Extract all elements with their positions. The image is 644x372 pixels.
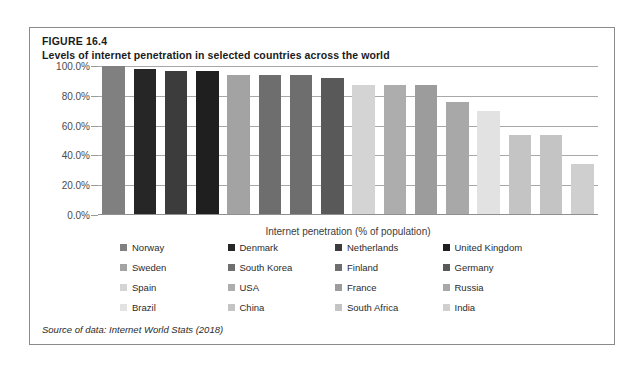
legend-label: Brazil <box>132 302 156 313</box>
plot-area: Internet penetration (% of population) <box>98 66 598 246</box>
legend-item-finland[interactable]: Finland <box>335 262 443 273</box>
y-axis: 100.0%80.0%60.0%40.0%20.0%0.0% <box>30 66 98 246</box>
bar-denmark <box>134 69 157 215</box>
y-axis-tick-label: 60.0% <box>62 120 90 131</box>
y-axis-tick-mark <box>91 66 98 67</box>
bar-slot <box>411 66 442 215</box>
bar-slot <box>161 66 192 215</box>
bar-slot <box>223 66 254 215</box>
bar-norway <box>102 66 125 215</box>
y-axis-tick-mark <box>91 215 98 216</box>
legend-swatch-icon <box>443 304 450 311</box>
legend-item-usa[interactable]: USA <box>228 282 336 293</box>
figure-title: Levels of internet penetration in select… <box>42 49 390 61</box>
legend-item-india[interactable]: India <box>443 302 551 313</box>
bar-united-kingdom <box>196 71 219 215</box>
y-axis-tick-mark <box>91 96 98 97</box>
legend-label: Denmark <box>240 242 279 253</box>
legend-label: Germany <box>455 262 494 273</box>
legend-swatch-icon <box>443 284 450 291</box>
bar-south-africa <box>540 135 563 215</box>
y-axis-tick-label: 20.0% <box>62 180 90 191</box>
bar-slot <box>536 66 567 215</box>
bar-slot <box>504 66 535 215</box>
legend-label: Spain <box>132 282 156 293</box>
x-axis-label: Internet penetration (% of population) <box>98 226 598 237</box>
bar-france <box>415 85 438 215</box>
bar-slot <box>442 66 473 215</box>
legend-item-sweden[interactable]: Sweden <box>120 262 228 273</box>
source-note: Source of data: Internet World Stats (20… <box>42 324 223 335</box>
legend-item-russia[interactable]: Russia <box>443 282 551 293</box>
legend-label: South Africa <box>347 302 398 313</box>
bar-russia <box>446 102 469 215</box>
legend-label: China <box>240 302 265 313</box>
y-axis-tick-label: 0.0% <box>67 210 90 221</box>
legend-swatch-icon <box>443 264 450 271</box>
legend-item-south-korea[interactable]: South Korea <box>228 262 336 273</box>
legend-swatch-icon <box>228 284 235 291</box>
bar-usa <box>384 85 407 215</box>
legend-item-denmark[interactable]: Denmark <box>228 242 336 253</box>
legend-item-spain[interactable]: Spain <box>120 282 228 293</box>
legend-item-brazil[interactable]: Brazil <box>120 302 228 313</box>
bar-slot <box>129 66 160 215</box>
bar-slot <box>286 66 317 215</box>
legend-swatch-icon <box>120 304 127 311</box>
legend-swatch-icon <box>120 244 127 251</box>
legend-swatch-icon <box>228 244 235 251</box>
bar-netherlands <box>165 71 188 215</box>
bar-slot <box>348 66 379 215</box>
y-axis-tick-label: 40.0% <box>62 150 90 161</box>
legend-swatch-icon <box>335 304 342 311</box>
legend-swatch-icon <box>228 304 235 311</box>
legend-item-netherlands[interactable]: Netherlands <box>335 242 443 253</box>
legend-label: Sweden <box>132 262 166 273</box>
bar-south-korea <box>259 75 282 215</box>
bar-germany <box>321 78 344 215</box>
bar-slot <box>379 66 410 215</box>
legend-swatch-icon <box>120 264 127 271</box>
legend-label: Finland <box>347 262 378 273</box>
legend-label: Russia <box>455 282 484 293</box>
legend-swatch-icon <box>335 244 342 251</box>
legend-label: Netherlands <box>347 242 398 253</box>
y-axis-tick-mark <box>91 126 98 127</box>
bar-spain <box>352 85 375 215</box>
legend-label: United Kingdom <box>455 242 523 253</box>
legend-swatch-icon <box>335 284 342 291</box>
legend-swatch-icon <box>228 264 235 271</box>
bar-slot <box>567 66 598 215</box>
legend-item-germany[interactable]: Germany <box>443 262 551 273</box>
legend-label: France <box>347 282 377 293</box>
bar-slot <box>254 66 285 215</box>
y-axis-tick-label: 100.0% <box>56 61 90 72</box>
legend-item-united-kingdom[interactable]: United Kingdom <box>443 242 551 253</box>
chart-legend: NorwayDenmarkNetherlandsUnited KingdomSw… <box>120 242 550 313</box>
x-axis-line <box>98 214 598 215</box>
chart-plot: 100.0%80.0%60.0%40.0%20.0%0.0% Internet … <box>30 66 616 246</box>
bar-slot <box>317 66 348 215</box>
legend-swatch-icon <box>335 264 342 271</box>
legend-swatch-icon <box>120 284 127 291</box>
legend-swatch-icon <box>443 244 450 251</box>
bar-brazil <box>477 111 500 215</box>
legend-item-china[interactable]: China <box>228 302 336 313</box>
bar-slot <box>473 66 504 215</box>
bar-series <box>98 66 598 215</box>
bar-slot <box>98 66 129 215</box>
figure-container: FIGURE 16.4 Levels of internet penetrati… <box>29 27 615 345</box>
legend-label: USA <box>240 282 260 293</box>
legend-label: Norway <box>132 242 164 253</box>
legend-item-south-africa[interactable]: South Africa <box>335 302 443 313</box>
y-axis-tick-mark <box>91 155 98 156</box>
bar-sweden <box>227 75 250 215</box>
figure-number: FIGURE 16.4 <box>42 35 107 47</box>
legend-label: South Korea <box>240 262 293 273</box>
legend-label: India <box>455 302 476 313</box>
bar-china <box>509 135 532 215</box>
legend-item-france[interactable]: France <box>335 282 443 293</box>
legend-item-norway[interactable]: Norway <box>120 242 228 253</box>
y-axis-tick-label: 80.0% <box>62 90 90 101</box>
bar-slot <box>192 66 223 215</box>
